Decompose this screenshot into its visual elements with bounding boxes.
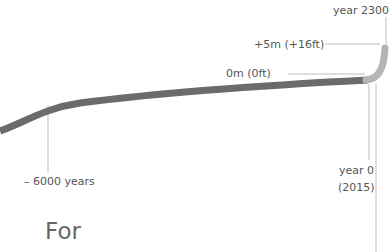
label-year-0: year 0	[339, 164, 374, 177]
future-sea-level-curve	[366, 48, 385, 80]
label-year-2300: year 2300	[333, 4, 389, 17]
label-zero-m: 0m (0ft)	[226, 67, 271, 80]
sea-level-diagram	[0, 0, 390, 252]
label-minus-6000-years: – 6000 years	[24, 175, 95, 188]
label-year-0-subtitle: (2015)	[338, 181, 375, 194]
label-plus-5m: +5m (+16ft)	[254, 38, 324, 51]
heading-fragment: For	[45, 218, 81, 244]
past-sea-level-curve	[0, 80, 368, 131]
